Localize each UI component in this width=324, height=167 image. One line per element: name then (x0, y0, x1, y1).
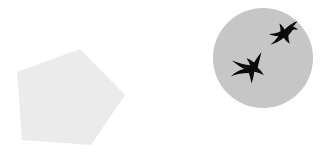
scene-svg (0, 0, 324, 167)
circle-shape (213, 8, 313, 108)
image-canvas (0, 0, 324, 167)
